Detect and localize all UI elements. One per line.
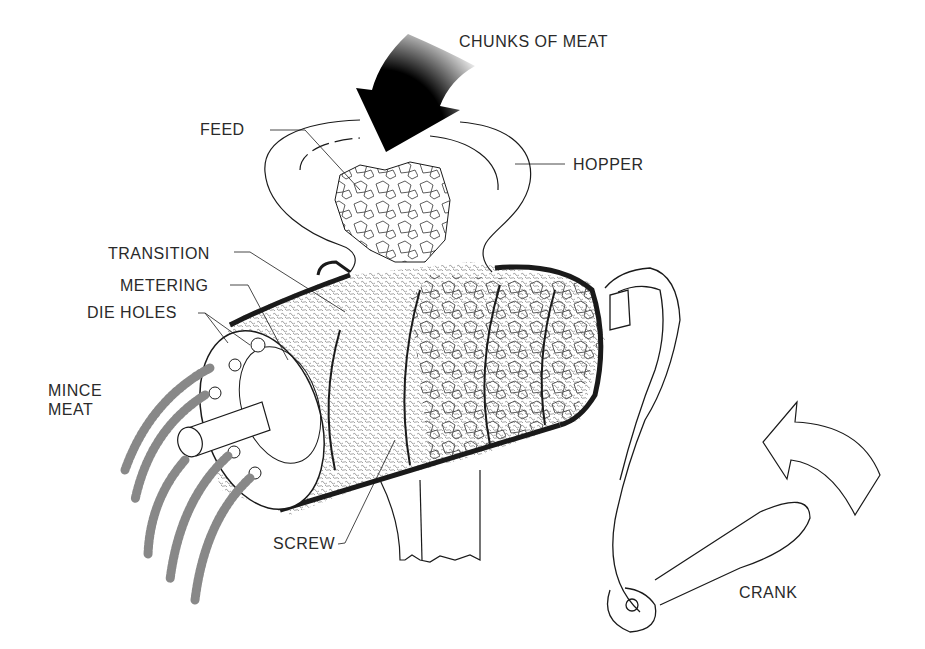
- meat-mincer-diagram: [0, 0, 925, 649]
- label-mince-meat: MINCE MEAT: [48, 381, 102, 419]
- meat-chunks-feed: [335, 162, 450, 262]
- input-arrow-icon: [356, 34, 475, 152]
- rotation-arrow-icon: [763, 402, 880, 515]
- label-hopper: HOPPER: [573, 155, 644, 174]
- label-metering: METERING: [120, 276, 208, 295]
- label-screw: SCREW: [273, 534, 335, 553]
- label-crank: CRANK: [739, 583, 798, 602]
- label-transition: TRANSITION: [108, 244, 210, 263]
- label-chunks-of-meat: CHUNKS OF MEAT: [459, 32, 608, 51]
- label-die-holes: DIE HOLES: [87, 303, 177, 322]
- stand: [380, 470, 480, 562]
- label-feed: FEED: [200, 120, 245, 139]
